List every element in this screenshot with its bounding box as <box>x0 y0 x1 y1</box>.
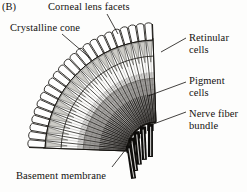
compound-eye-figure: (B) Corneal lens facets Crystalline cone… <box>0 0 247 192</box>
label-corneal-lens-facets: Corneal lens facets <box>48 1 130 13</box>
label-retinular-cells: Retinular cells <box>189 32 229 55</box>
label-basement-membrane: Basement membrane <box>16 170 106 182</box>
label-pigment-cells: Pigment cells <box>189 75 225 98</box>
label-nerve-fiber-bundle: Nerve fiber bundle <box>189 108 238 131</box>
label-crystalline-cone: Crystalline cone <box>10 22 80 34</box>
leader-line-retinular <box>161 38 186 52</box>
